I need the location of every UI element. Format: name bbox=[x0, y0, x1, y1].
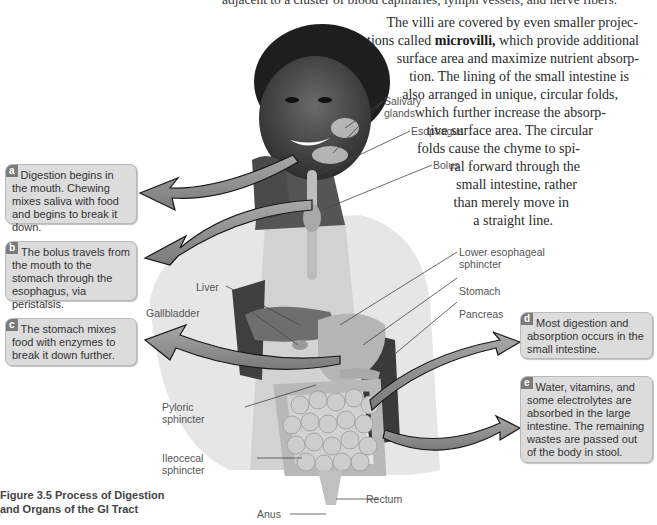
paragraph-line: tions called microvilli, which provide a… bbox=[367, 32, 639, 50]
label-liver: Liver bbox=[196, 281, 219, 293]
label-les-line1: Lower esophageal bbox=[459, 246, 545, 258]
paragraph-line: tive surface area. The circular bbox=[427, 122, 593, 140]
paragraph-line: tion. The lining of the small intestine … bbox=[409, 68, 629, 86]
label-pyloric-sphincter: Pyloric sphincter bbox=[162, 401, 205, 425]
paragraph-line: ral forward through the bbox=[450, 158, 580, 176]
label-ileocecal-line2: sphincter bbox=[162, 464, 205, 476]
callout-c: cThe stomach mixes food with enzymes to … bbox=[5, 318, 137, 366]
paragraph-line: small intestine, rather bbox=[456, 176, 577, 194]
term-microvilli: microvilli, bbox=[435, 33, 496, 48]
label-lower-esophageal-sphincter: Lower esophageal sphincter bbox=[459, 246, 545, 270]
body-paragraph: The villi are covered by even smaller pr… bbox=[0, 0, 657, 200]
paragraph-line: which further increase the absorp- bbox=[415, 104, 606, 122]
callout-badge-d: d bbox=[521, 313, 533, 325]
label-pancreas: Pancreas bbox=[459, 308, 503, 320]
label-ileocecal-sphincter: Ileocecal sphincter bbox=[162, 452, 205, 476]
callout-text-d: Most digestion and absorption occurs in … bbox=[527, 317, 644, 355]
callout-e: eWater, vitamins, and some electrolytes … bbox=[520, 376, 653, 463]
label-rectum: Rectum bbox=[366, 493, 402, 505]
callout-badge-c: c bbox=[6, 319, 18, 331]
label-gallbladder: Gallbladder bbox=[146, 307, 200, 319]
figure-caption: Figure 3.5 Process of Digestion and Orga… bbox=[0, 488, 164, 516]
label-ileocecal-line1: Ileocecal bbox=[162, 452, 205, 464]
figure-caption-line2: and Organs of the GI Tract bbox=[0, 502, 164, 516]
paragraph-line: than merely move in bbox=[454, 194, 569, 212]
callout-text-c: The stomach mixes food with enzymes to b… bbox=[12, 323, 116, 361]
label-pyloric-line2: sphincter bbox=[162, 413, 205, 425]
callout-text-b: The bolus travels from the mouth to the … bbox=[12, 246, 130, 310]
label-pyloric-line1: Pyloric bbox=[162, 401, 205, 413]
callout-badge-b: b bbox=[6, 242, 18, 254]
figure-caption-line1: Figure 3.5 Process of Digestion bbox=[0, 488, 164, 502]
callout-text-e: Water, vitamins, and some electrolytes a… bbox=[527, 381, 644, 458]
paragraph-line: folds cause the chyme to spi- bbox=[417, 140, 580, 158]
paragraph-line: a straight line. bbox=[473, 212, 553, 230]
label-les-line2: sphincter bbox=[459, 258, 545, 270]
label-stomach: Stomach bbox=[459, 285, 500, 297]
callout-badge-e: e bbox=[521, 377, 533, 389]
callout-d: dMost digestion and absorption occurs in… bbox=[520, 312, 653, 359]
callout-b: bThe bolus travels from the mouth to the… bbox=[5, 241, 137, 301]
paragraph-line: The villi are covered by even smaller pr… bbox=[387, 14, 639, 32]
label-anus: Anus bbox=[257, 508, 281, 520]
paragraph-line: also arranged in unique, circular folds, bbox=[402, 86, 618, 104]
paragraph-line: surface area and maximize nutrient absor… bbox=[397, 50, 639, 68]
